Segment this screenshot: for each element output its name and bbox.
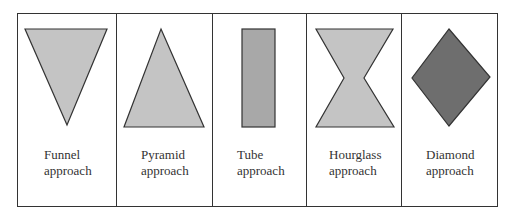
label-hourglass: Hourglassapproach bbox=[329, 147, 381, 179]
diamond-shape bbox=[412, 29, 490, 126]
label-diamond: Diamondapproach bbox=[426, 147, 474, 179]
shapes-layer bbox=[0, 0, 516, 221]
label-tube: Tubeapproach bbox=[237, 147, 285, 179]
label-funnel: Funnelapproach bbox=[44, 147, 92, 179]
pyramid-shape bbox=[124, 29, 204, 127]
funnel-shape bbox=[25, 29, 107, 125]
label-pyramid: Pyramidapproach bbox=[141, 147, 189, 179]
hourglass-shape bbox=[316, 29, 394, 127]
tube-shape bbox=[242, 29, 275, 127]
